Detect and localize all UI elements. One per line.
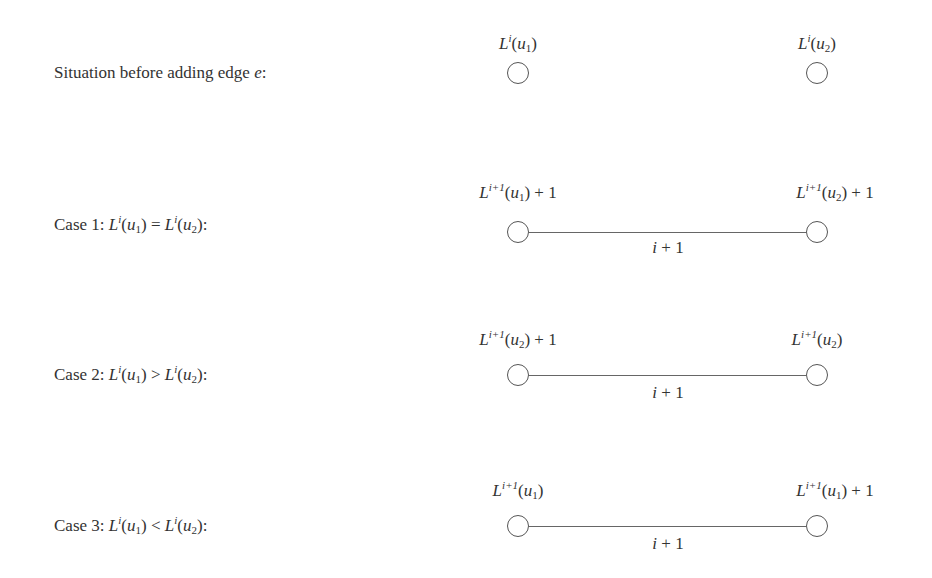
case1-left-node (507, 221, 529, 243)
node-label-u2-before: Li(u2) (798, 34, 836, 54)
case2-right-node (806, 364, 828, 386)
case2-label: Case 2: Li(u1) > Li(u2): (54, 365, 207, 385)
case3-edge-label: i + 1 (652, 534, 683, 554)
case3-edge (529, 526, 806, 527)
case3-right-node-label: Li+1(u1) + 1 (796, 481, 873, 501)
case3-right-node (806, 515, 828, 537)
case1-label: Case 1: Li(u1) = Li(u2): (54, 215, 207, 235)
case2-left-node-label: Li+1(u2) + 1 (479, 330, 556, 350)
node-u1-before (507, 62, 529, 84)
case1-right-node-label: Li+1(u2) + 1 (796, 183, 873, 203)
node-label-u1-before: Li(u1) (499, 34, 537, 54)
case1-edge-label: i + 1 (652, 238, 683, 258)
node-u2-before (806, 62, 828, 84)
case2-edge-label: i + 1 (652, 383, 683, 403)
case2-right-node-label: Li+1(u2) (792, 330, 843, 350)
colon: : (262, 63, 267, 82)
case1-left-node-label: Li+1(u1) + 1 (479, 183, 556, 203)
situation-label: Situation before adding edge e: (54, 63, 266, 83)
case2-left-node (507, 364, 529, 386)
case2-edge (529, 375, 806, 376)
case1-right-node (806, 221, 828, 243)
case3-label: Case 3: Li(u1) < Li(u2): (54, 516, 207, 536)
situation-text: Situation before adding edge (54, 63, 254, 82)
edge-symbol: e (254, 63, 262, 82)
case1-edge (529, 232, 806, 233)
case3-left-node (507, 515, 529, 537)
case3-left-node-label: Li+1(u1) (493, 481, 544, 501)
